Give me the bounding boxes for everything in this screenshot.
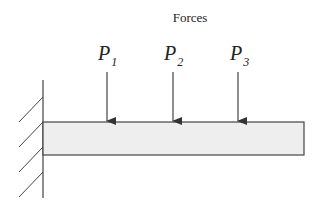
load-p2: P2 bbox=[163, 42, 183, 121]
load-label-p2: P2 bbox=[163, 42, 183, 69]
load-p1: P1 bbox=[97, 42, 117, 121]
cantilever-diagram: Forces P1 P2 P3 bbox=[0, 0, 321, 209]
load-label-p3: P3 bbox=[229, 42, 249, 69]
beam bbox=[43, 122, 304, 155]
load-label-p1: P1 bbox=[97, 42, 117, 69]
diagram-title: Forces bbox=[173, 10, 208, 25]
fixed-wall-support bbox=[19, 80, 43, 198]
load-p3: P3 bbox=[229, 42, 249, 121]
